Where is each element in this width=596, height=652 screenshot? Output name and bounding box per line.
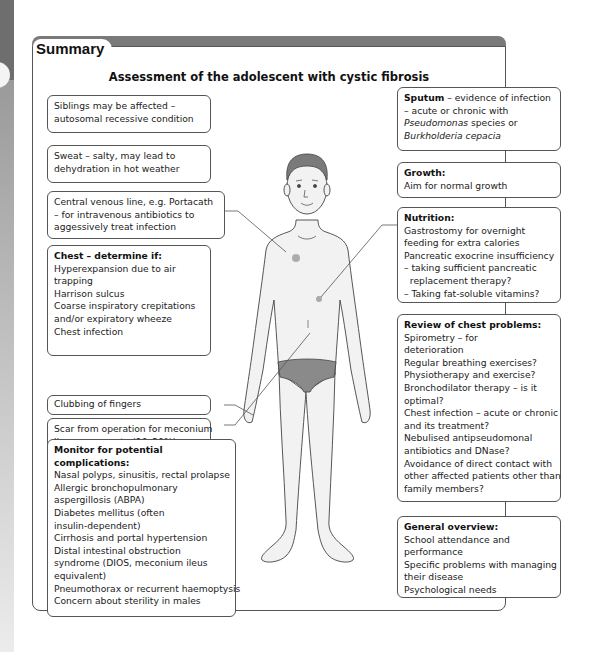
general-text-line: School attendance and: [404, 534, 554, 547]
sputum-text: – evidence of infection: [444, 92, 551, 103]
nutrition-heading: Nutrition:: [404, 212, 554, 225]
sweat-box: Sweat – salty, may lead to dehydration i…: [47, 145, 211, 183]
complications-text-line: Cirrhosis and portal hypertension: [54, 532, 229, 545]
siblings-box: Siblings may be affected – autosomal rec…: [47, 95, 211, 133]
burkholderia-text: Burkholderia cepacia: [404, 130, 554, 143]
clubbing-box: Clubbing of fingers: [47, 395, 211, 415]
chest-heading: Chest – determine if:: [54, 250, 204, 263]
chest-review-text-line: other affected patients other than: [404, 470, 554, 483]
growth-box: Growth: Aim for normal growth: [397, 162, 561, 198]
chest-review-text-line: family members?: [404, 483, 554, 496]
chest-review-text-line: Avoidance of direct contact with: [404, 458, 554, 471]
sputum-heading: Sputum: [404, 92, 444, 103]
general-overview-heading: General overview:: [404, 521, 554, 534]
complications-text-line: Concern about sterility in males: [54, 595, 229, 608]
sweat-text-line: Sweat – salty, may lead to: [54, 150, 204, 163]
complications-heading: Monitor for potential: [54, 444, 229, 457]
general-text-line: Psychological needs: [404, 584, 554, 597]
chest-review-text-line: deterioration: [404, 344, 554, 357]
chest-text-line: Chest infection: [54, 326, 204, 339]
chest-review-text-line: Regular breathing exercises?: [404, 357, 554, 370]
sputum-box: Sputum – evidence of infection – acute o…: [397, 87, 561, 151]
sputum-text: species or: [468, 117, 518, 128]
clubbing-text-line: Clubbing of fingers: [54, 398, 204, 411]
complications-text-line: Diabetes mellitus (often: [54, 507, 229, 520]
chest-review-text-line: Chest infection – acute or chronic: [404, 407, 554, 420]
chest-text-line: Hyperexpansion due to air: [54, 263, 204, 276]
complications-heading: complications:: [54, 457, 229, 470]
complications-text-line: Distal intestinal obstruction: [54, 545, 229, 558]
nutrition-box: Nutrition: Gastrostomy for overnight fee…: [397, 207, 561, 303]
sputum-line-1: Sputum – evidence of infection: [404, 92, 554, 105]
central-line-box: Central venous line, e.g. Portacath – fo…: [47, 191, 225, 239]
chest-text-line: Coarse inspiratory crepitations: [54, 300, 204, 313]
chest-review-text-line: and its treatment?: [404, 420, 554, 433]
scar-text-line: Scar from operation for meconium: [54, 423, 204, 436]
growth-heading: Growth:: [404, 167, 554, 180]
complications-text-line: Allergic bronchopulmonary: [54, 482, 229, 495]
siblings-text-line: Siblings may be affected –: [54, 100, 204, 113]
central-line-text-line: – for intravenous antibiotics to: [54, 209, 218, 222]
chest-text-line: Harrison sulcus: [54, 288, 204, 301]
chest-review-text-line: optimal?: [404, 395, 554, 408]
complications-text-line: syndrome (DIOS, meconium ileus: [54, 557, 229, 570]
nutrition-text-line: – taking sufficient pancreatic: [404, 262, 554, 275]
siblings-text-line: autosomal recessive condition: [54, 113, 204, 126]
growth-text-line: Aim for normal growth: [404, 180, 554, 193]
sputum-text-line: – acute or chronic with: [404, 105, 554, 118]
central-line-text-line: aggessively treat infection: [54, 221, 218, 234]
chest-review-text-line: Nebulised antipseudomonal: [404, 432, 554, 445]
general-text-line: performance: [404, 546, 554, 559]
chest-text-line: and/or expiratory wheeze: [54, 313, 204, 326]
chest-text-line: trapping: [54, 275, 204, 288]
chest-review-text-line: Spirometry – for: [404, 332, 554, 345]
nutrition-text-line: replacement therapy?: [404, 275, 554, 288]
central-line-text-line: Central venous line, e.g. Portacath: [54, 196, 218, 209]
sweat-text-line: dehydration in hot weather: [54, 163, 204, 176]
chest-review-text-line: Physiotherapy and exercise?: [404, 369, 554, 382]
chest-review-text-line: antibiotics and DNase?: [404, 445, 554, 458]
chest-review-heading: Review of chest problems:: [404, 319, 554, 332]
nutrition-text-line: feeding for extra calories: [404, 237, 554, 250]
pseudomonas-text: Pseudomonas: [404, 117, 468, 128]
sputum-line-3: Pseudomonas species or: [404, 117, 554, 130]
nutrition-text-line: Gastrostomy for overnight: [404, 225, 554, 238]
complications-text-line: insulin-dependent): [54, 520, 229, 533]
general-text-line: Specific problems with managing: [404, 559, 554, 572]
general-text-line: their disease: [404, 571, 554, 584]
complications-box: Monitor for potential complications: Nas…: [47, 439, 236, 617]
complications-text-line: Nasal polyps, sinusitis, rectal prolapse: [54, 469, 229, 482]
complications-text-line: aspergillosis (ABPA): [54, 494, 229, 507]
chest-review-box: Review of chest problems: Spirometry – f…: [397, 314, 561, 502]
nutrition-text-line: – Taking fat-soluble vitamins?: [404, 288, 554, 301]
chest-review-text-line: Bronchodilator therapy – is it: [404, 382, 554, 395]
general-overview-box: General overview: School attendance and …: [397, 516, 561, 598]
complications-text-line: Pneumothorax or recurrent haemoptysis: [54, 583, 229, 596]
nutrition-text-line: Pancreatic exocrine insufficiency: [404, 250, 554, 263]
complications-text-line: equivalent): [54, 570, 229, 583]
chest-determine-box: Chest – determine if: Hyperexpansion due…: [47, 245, 211, 356]
